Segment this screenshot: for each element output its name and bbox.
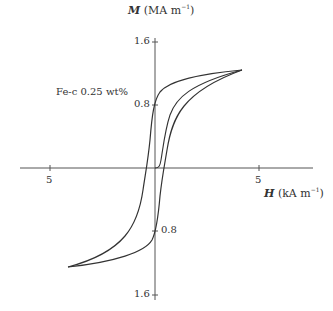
y-axis-title: M (MA m−1) — [128, 3, 194, 17]
x-tick-label-right: 5 — [255, 174, 261, 185]
x-axis-exponent: −1 — [311, 186, 320, 193]
y-tick-label-bottom: 1.6 — [134, 288, 150, 299]
y-axis-exponent: −1 — [181, 3, 190, 10]
y-tick-label-upper: 0.8 — [134, 98, 150, 109]
x-tick-label-left: 5 — [46, 174, 52, 185]
plot-area — [0, 0, 333, 311]
y-axis-unit: (MA m — [144, 4, 181, 17]
x-axis-title: H (kA m−1) — [264, 186, 324, 200]
material-annotation: Fe-c 0.25 wt% — [56, 86, 128, 97]
hysteresis-chart: M (MA m−1) H (kA m−1) 1.6 0.8 0.8 1.6 5 … — [0, 0, 333, 311]
x-axis-close: ) — [320, 187, 324, 200]
x-axis-unit: (kA m — [278, 187, 311, 200]
y-tick-label-top: 1.6 — [134, 35, 150, 46]
y-axis-symbol: M — [128, 4, 140, 17]
x-axis-symbol: H — [264, 187, 274, 200]
y-tick-label-lower: 0.8 — [161, 224, 177, 235]
initial-magnetization-curve — [155, 70, 242, 168]
y-axis-close: ) — [190, 4, 194, 17]
